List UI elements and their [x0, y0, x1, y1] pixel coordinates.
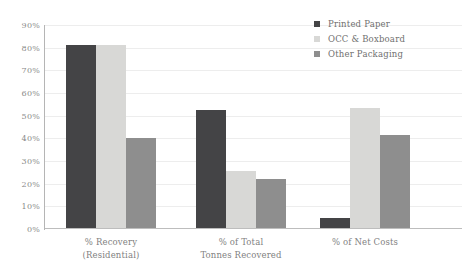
bar-group: [66, 25, 156, 229]
chart-legend: Printed PaperOCC & BoxboardOther Packagi…: [314, 16, 405, 61]
y-axis-tick-label: 50%: [4, 111, 40, 120]
legend-item-label: OCC & Boxboard: [328, 34, 405, 44]
bar: [350, 108, 380, 229]
bar-group: [196, 25, 286, 229]
x-axis-category-label: % Recovery(Residential): [41, 236, 181, 262]
x-axis-category-label: % of TotalTonnes Recovered: [171, 236, 311, 262]
y-axis-labels: 90%80%70%60%50%40%30%20%10%0%: [0, 25, 40, 229]
bar: [226, 171, 256, 229]
bar: [256, 179, 286, 229]
x-axis-category-label: % of Net Costs: [295, 236, 435, 249]
legend-swatch-icon: [314, 21, 320, 27]
bar: [66, 45, 96, 229]
x-axis-category-label-line: % of Net Costs: [295, 236, 435, 249]
x-axis-category-label-line: % of Total: [171, 236, 311, 249]
y-axis-tick-label: 60%: [4, 89, 40, 98]
bar-chart: 90%80%70%60%50%40%30%20%10%0% % Recovery…: [0, 0, 470, 274]
y-axis-tick-label: 20%: [4, 179, 40, 188]
y-axis-tick-label: 30%: [4, 157, 40, 166]
legend-item[interactable]: Printed Paper: [314, 16, 405, 31]
y-axis-tick-label: 80%: [4, 43, 40, 52]
y-axis-tick-label: 10%: [4, 202, 40, 211]
legend-swatch-icon: [314, 51, 320, 57]
y-axis-tick-label: 40%: [4, 134, 40, 143]
x-axis-category-label-line: % Recovery: [41, 236, 181, 249]
bar: [126, 138, 156, 229]
legend-item-label: Printed Paper: [328, 19, 390, 29]
legend-swatch-icon: [314, 36, 320, 42]
x-axis-baseline: [44, 228, 462, 229]
x-axis-category-label-line: (Residential): [41, 249, 181, 262]
x-axis-labels: % Recovery(Residential)% of TotalTonnes …: [44, 236, 462, 274]
legend-item-label: Other Packaging: [328, 49, 403, 59]
x-axis-category-label-line: Tonnes Recovered: [171, 249, 311, 262]
legend-item[interactable]: Other Packaging: [314, 46, 405, 61]
y-axis-tick-label: 90%: [4, 21, 40, 30]
y-axis-tick-label: 0%: [4, 225, 40, 234]
bar: [380, 135, 410, 229]
y-axis-line: [44, 25, 45, 230]
legend-item[interactable]: OCC & Boxboard: [314, 31, 405, 46]
y-axis-tick-label: 70%: [4, 66, 40, 75]
bar: [96, 45, 126, 229]
bar: [196, 110, 226, 229]
